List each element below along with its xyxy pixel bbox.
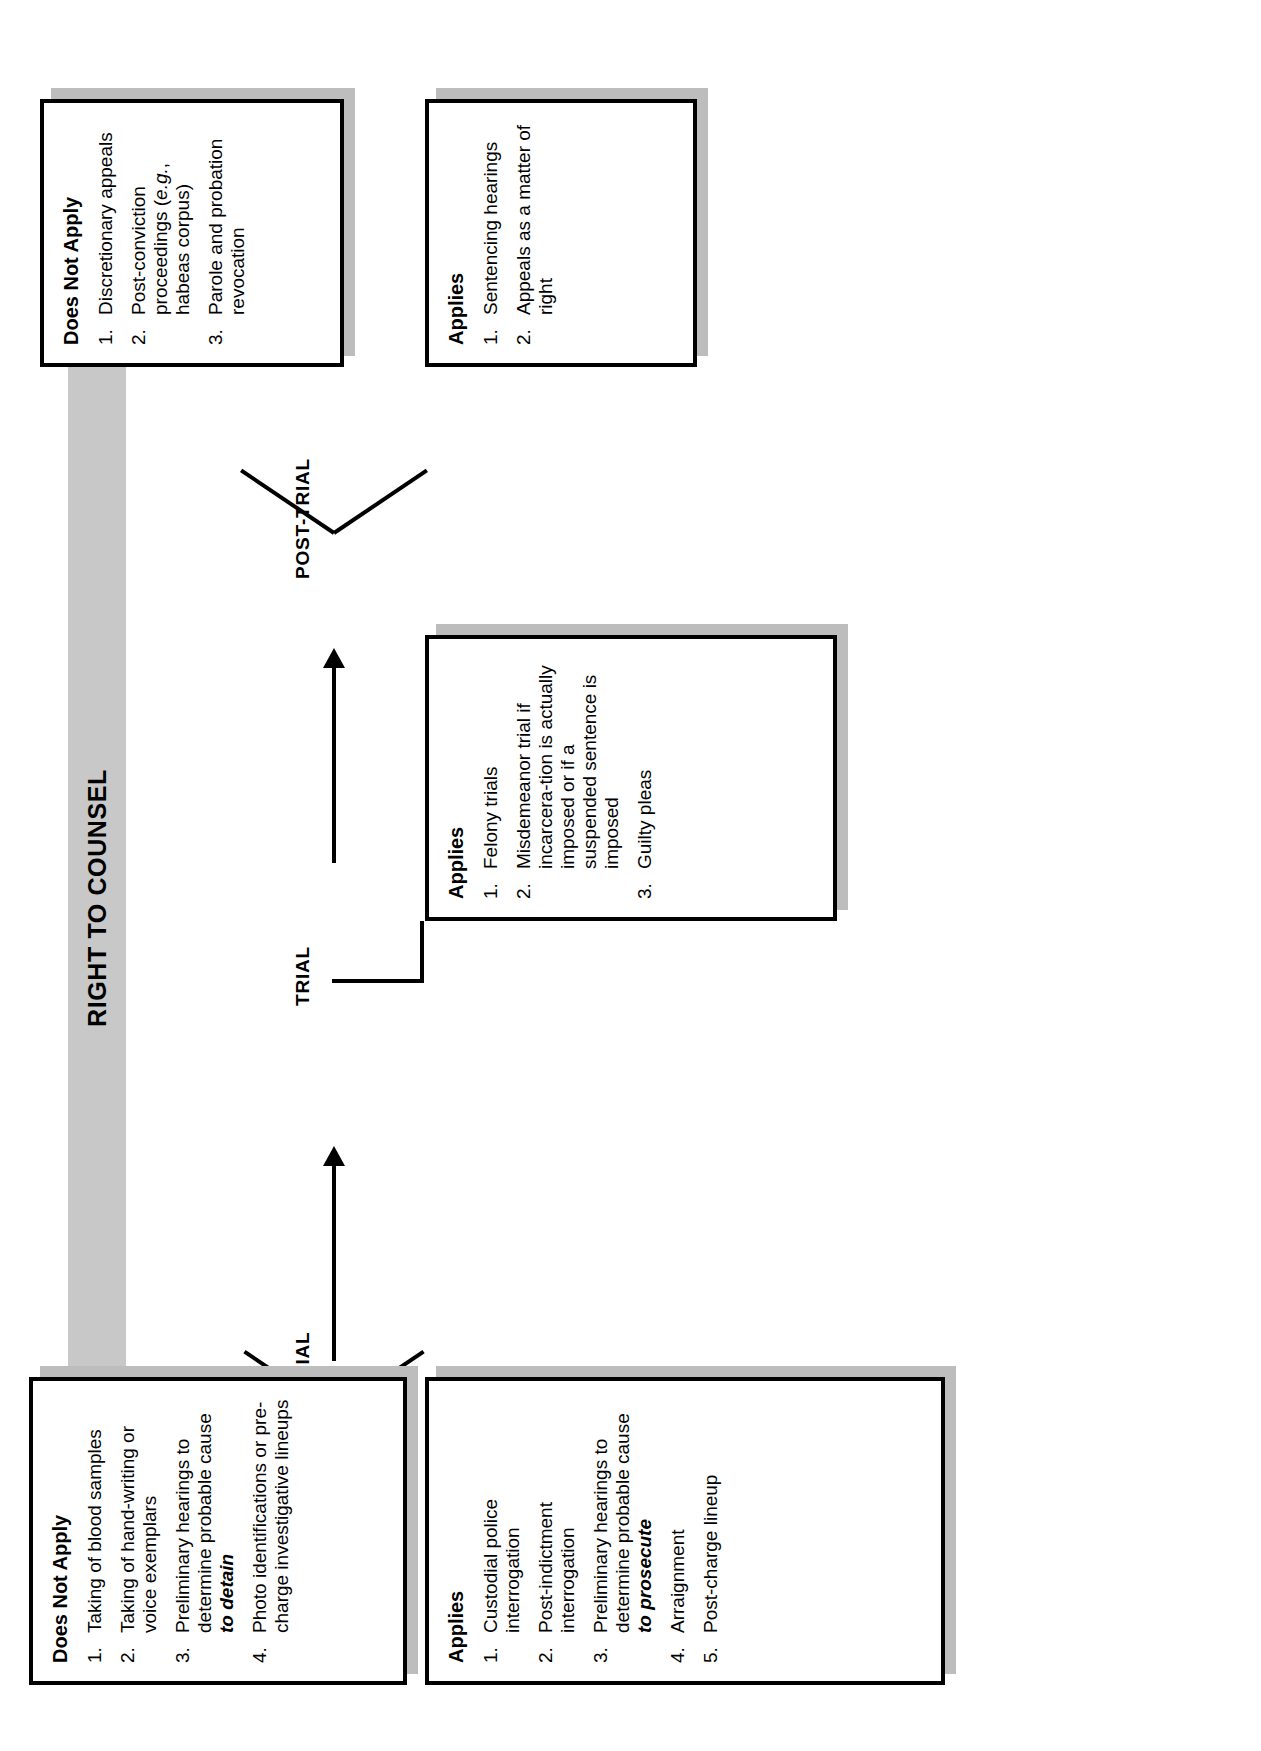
list-item-text: Taking of blood samples <box>84 1429 105 1633</box>
list-item-text: Guilty pleas <box>634 770 655 869</box>
list-item-number: 2. <box>535 1647 557 1663</box>
list-item: 3. Guilty pleas <box>634 657 656 899</box>
list-item-text: Discretionary appeals <box>95 132 116 315</box>
list-item-number: 2. <box>128 329 150 345</box>
box-title-trial-applies: Applies <box>445 657 468 899</box>
list-item: 2. Post-indictment interrogation <box>535 1399 579 1663</box>
list-item-number: 3. <box>172 1647 194 1663</box>
list-item-text: Felony trials <box>480 767 501 869</box>
list-item: 1. Sentencing hearings <box>480 121 502 345</box>
box-post-trial-applies[interactable]: Applies 1. Sentencing hearings 2. Appeal… <box>425 99 697 367</box>
list-item: 1. Custodial police interrogation <box>480 1399 524 1663</box>
list-item-emphasis: to prosecute <box>634 1519 655 1633</box>
box-list-post-trial-applies: 1. Sentencing hearings 2. Appeals as a m… <box>480 121 557 345</box>
list-item: 4. Photo identifications or pre-charge i… <box>249 1399 293 1663</box>
list-item-number: 1. <box>95 329 117 345</box>
box-title-pretrial-applies: Applies <box>445 1399 468 1663</box>
timeline-spine-trial-to-posttrial <box>332 668 336 863</box>
box-list-pretrial-does-not-apply: 1. Taking of blood samples 2. Taking of … <box>84 1399 293 1663</box>
branch-leg-post-trial-does-not-apply <box>240 469 335 535</box>
list-item-text: Preliminary hearings to determine probab… <box>590 1413 633 1633</box>
list-item-text: Post-charge lineup <box>700 1475 721 1633</box>
branch-leg-trial-applies <box>332 979 424 983</box>
box-list-trial-applies: 1. Felony trials 2. Misdemeanor trial if… <box>480 657 656 899</box>
box-title-post-trial-applies: Applies <box>445 121 468 345</box>
list-item: 5. Post-charge lineup <box>700 1399 722 1663</box>
box-pretrial-applies[interactable]: Applies 1. Custodial police interrogatio… <box>425 1377 945 1685</box>
page-title: RIGHT TO COUNSEL <box>83 769 112 1027</box>
list-item-number: 4. <box>667 1647 689 1663</box>
stage-label-post-trial: POST-TRIAL <box>292 458 314 579</box>
list-item: 3. Parole and probation revocation <box>205 121 249 345</box>
list-item-emphasis: to detain <box>216 1554 237 1633</box>
arrow-head-post-trial <box>323 648 345 668</box>
box-post-trial-does-not-apply[interactable]: Does Not Apply 1. Discretionary appeals … <box>40 99 344 367</box>
list-item-number: 1. <box>84 1647 106 1663</box>
list-item-text: Misdemeanor trial if incarcera-tion is a… <box>513 665 622 869</box>
list-item: 2. Appeals as a matter of right <box>513 121 557 345</box>
list-item: 3. Preliminary hearings to determine pro… <box>590 1399 656 1663</box>
box-trial-applies[interactable]: Applies 1. Felony trials 2. Misdemeanor … <box>425 635 837 921</box>
list-item-text: Taking of hand-writing or voice exemplar… <box>117 1426 160 1633</box>
list-item-text: Photo identifications or pre-charge inve… <box>249 1400 292 1633</box>
list-item-number: 1. <box>480 1647 502 1663</box>
box-title-pretrial-does-not-apply: Does Not Apply <box>49 1399 72 1663</box>
list-item: 2. Taking of hand-writing or voice exemp… <box>117 1399 161 1663</box>
list-item-emphasis: e.g. <box>150 168 171 200</box>
list-item: 4. Arraignment <box>667 1399 689 1663</box>
box-list-pretrial-applies: 1. Custodial police interrogation 2. Pos… <box>480 1399 722 1663</box>
list-item: 2. Post-conviction proceedings (e.g., ha… <box>128 121 194 345</box>
list-item-number: 2. <box>513 329 535 345</box>
box-list-post-trial-does-not-apply: 1. Discretionary appeals 2. Post-convict… <box>95 121 249 345</box>
list-item-text: Preliminary hearings to determine probab… <box>172 1413 215 1633</box>
list-item-text: Post-conviction proceedings ( <box>128 186 171 315</box>
list-item-text: Arraignment <box>667 1530 688 1634</box>
list-item-number: 2. <box>117 1647 139 1663</box>
timeline-spine-pretrial-to-trial <box>332 1166 336 1361</box>
list-item-number: 3. <box>205 329 227 345</box>
list-item: 3. Preliminary hearings to determine pro… <box>172 1399 238 1663</box>
list-item-number: 3. <box>590 1647 612 1663</box>
approach-chart-page: RIGHT TO COUNSEL CMR APPROACH CHART PRET… <box>0 0 1261 1751</box>
list-item-number: 1. <box>480 329 502 345</box>
list-item-text: Sentencing hearings <box>480 142 501 315</box>
list-item-text: Appeals as a matter of right <box>513 125 556 315</box>
list-item: 2. Misdemeanor trial if incarcera-tion i… <box>513 657 623 899</box>
list-item-number: 3. <box>634 883 656 899</box>
list-item-text: Post-indictment interrogation <box>535 1502 578 1633</box>
list-item-text: Custodial police interrogation <box>480 1499 523 1633</box>
box-title-post-trial-does-not-apply: Does Not Apply <box>60 121 83 345</box>
arrow-head-trial <box>323 1146 345 1166</box>
list-item: 1. Felony trials <box>480 657 502 899</box>
box-pretrial-does-not-apply[interactable]: Does Not Apply 1. Taking of blood sample… <box>29 1377 407 1685</box>
stage-label-trial: TRIAL <box>292 946 314 1006</box>
branch-stub-trial-applies <box>420 921 424 983</box>
list-item: 1. Discretionary appeals <box>95 121 117 345</box>
list-item-number: 4. <box>249 1647 271 1663</box>
list-item-number: 2. <box>513 883 535 899</box>
list-item: 1. Taking of blood samples <box>84 1399 106 1663</box>
list-item-number: 5. <box>700 1647 722 1663</box>
branch-leg-post-trial-applies <box>333 469 428 535</box>
list-item-number: 1. <box>480 883 502 899</box>
list-item-text: Parole and probation revocation <box>205 139 248 315</box>
rotated-chart-canvas: RIGHT TO COUNSEL CMR APPROACH CHART PRET… <box>0 0 1261 1751</box>
